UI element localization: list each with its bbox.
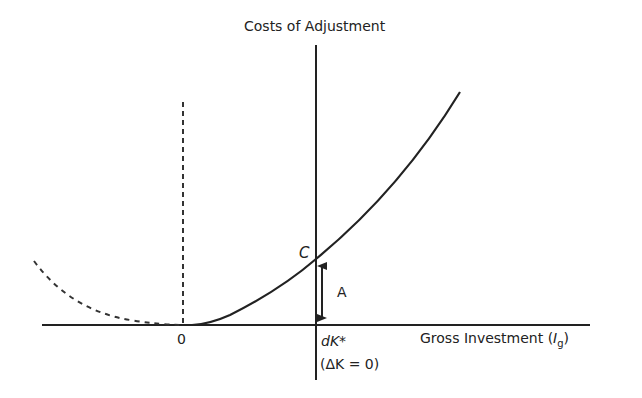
x-axis-label-text: Gross Investment ( — [420, 330, 553, 346]
equilibrium-condition: (ΔK = 0) — [320, 356, 379, 372]
y-axis-label: Costs of Adjustment — [244, 18, 385, 34]
point-c-label: C — [299, 244, 309, 262]
x-axis-close: ) — [564, 330, 569, 346]
x-axis-label: Gross Investment (Ig) — [420, 330, 569, 349]
adjustment-cost-curve — [192, 92, 460, 325]
equilibrium-label: dK* — [321, 333, 346, 349]
negative-investment-cost-curve — [34, 261, 183, 325]
origin-label: 0 — [177, 331, 186, 347]
arrow-a-label: A — [337, 284, 347, 300]
